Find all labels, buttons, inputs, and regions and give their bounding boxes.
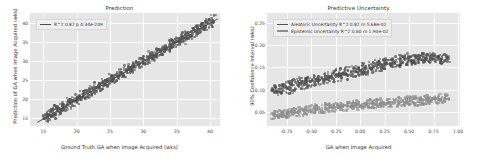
legend-entry: Epistemic Uncertainty R^2 0.60 m 1.90e-0…	[277, 29, 388, 34]
scatter-point	[125, 76, 127, 78]
scatter-point	[291, 108, 293, 110]
scatter-point	[53, 104, 56, 107]
scatter-point	[126, 72, 129, 75]
scatter-point	[186, 37, 188, 39]
scatter-point	[273, 118, 275, 120]
scatter-point	[417, 104, 419, 106]
scatter-point	[361, 107, 364, 110]
scatter-point	[355, 68, 357, 70]
scatter-point	[326, 82, 329, 85]
scatter-point	[347, 108, 349, 110]
x-tick-label: -0.75	[281, 129, 293, 134]
scatter-point	[394, 100, 396, 102]
scatter-point	[296, 111, 299, 114]
gridline-vertical	[434, 13, 435, 126]
scatter-point	[204, 20, 206, 22]
scatter-point	[78, 103, 80, 105]
scatter-point	[446, 94, 448, 96]
scatter-point	[375, 69, 377, 71]
scatter-point	[84, 96, 87, 99]
scatter-point	[332, 81, 334, 83]
scatter-point	[412, 101, 414, 103]
gridline-vertical	[409, 13, 410, 126]
scatter-point	[287, 115, 289, 117]
scatter-point	[377, 106, 380, 109]
gridline-vertical	[110, 13, 111, 126]
regression-fit-line	[37, 19, 217, 123]
scatter-point	[307, 110, 310, 113]
scatter-point	[320, 76, 323, 79]
scatter-point	[291, 113, 293, 115]
scatter-point	[277, 116, 279, 118]
gridline-horizontal	[30, 61, 220, 62]
scatter-point	[346, 78, 349, 81]
scatter-point	[401, 62, 403, 64]
scatter-point	[54, 117, 57, 120]
gridline-vertical	[210, 13, 211, 126]
x-tick-label: 25	[107, 129, 113, 134]
scatter-point	[376, 67, 379, 70]
scatter-point	[358, 68, 360, 70]
scatter-point	[141, 65, 144, 68]
scatter-point	[71, 104, 74, 107]
scatter-point	[95, 90, 97, 92]
scatter-point	[299, 115, 301, 117]
scatter-point	[170, 47, 173, 50]
panel-title-right: Predictive Uncertainty	[239, 5, 478, 11]
figure-canvas: Prediction 152025303540 152025303540 Gro…	[0, 0, 478, 157]
scatter-point	[169, 50, 171, 52]
scatter-point	[47, 120, 49, 122]
scatter-point	[134, 69, 137, 72]
scatter-point	[435, 59, 437, 61]
panel-predictive-uncertainty: Predictive Uncertainty -0.75-0.50-0.250.…	[239, 0, 478, 157]
gridline-horizontal	[30, 42, 220, 43]
scatter-point	[206, 29, 208, 31]
gridline-horizontal	[30, 99, 220, 100]
legend-label: R^2 0.82 p 4.34e-209	[54, 22, 103, 27]
scatter-point	[274, 85, 276, 87]
legend-line-swatch	[277, 30, 288, 32]
scatter-point	[361, 64, 364, 67]
scatter-point	[400, 64, 402, 66]
scatter-point	[290, 91, 292, 93]
scatter-point	[337, 80, 339, 82]
scatter-point	[388, 103, 390, 105]
scatter-point	[314, 83, 317, 86]
scatter-point	[285, 91, 287, 93]
x-tick-label: 0.50	[404, 129, 414, 134]
scatter-point	[191, 38, 193, 40]
scatter-point	[42, 114, 44, 116]
scatter-point	[182, 40, 185, 43]
scatter-point	[441, 97, 443, 99]
y-axis-label-left: Prediction of GA when Image Acquired (wk…	[12, 6, 18, 126]
scatter-point	[438, 102, 441, 105]
scatter-point	[324, 80, 327, 83]
scatter-point	[273, 110, 275, 112]
legend-label: Aleatoric Uncertainty R^2 0.82 m 5.68e-0…	[291, 22, 386, 27]
scatter-point	[394, 55, 396, 57]
x-axis-label-left: Ground Truth GA when Image Acquired (wks…	[0, 144, 239, 150]
scatter-point	[313, 111, 316, 114]
scatter-point	[102, 87, 104, 89]
scatter-point	[64, 109, 67, 112]
x-tick-label: 0.75	[428, 129, 438, 134]
scatter-point	[334, 69, 337, 72]
gridline-horizontal	[30, 80, 220, 81]
legend-left: R^2 0.82 p 4.34e-209	[36, 19, 107, 30]
legend-line-swatch	[277, 24, 288, 26]
legend-line-swatch	[40, 24, 51, 26]
scatter-point	[383, 67, 386, 70]
scatter-point	[184, 43, 186, 45]
scatter-point	[155, 56, 157, 58]
scatter-point	[341, 74, 343, 76]
scatter-point	[440, 93, 442, 95]
scatter-point	[153, 58, 155, 60]
x-tick-label: 1.00	[453, 129, 463, 134]
scatter-point	[292, 92, 294, 94]
scatter-point	[198, 31, 201, 34]
scatter-point	[280, 110, 283, 113]
scatter-point	[346, 74, 349, 77]
scatter-point	[58, 111, 60, 113]
scatter-point	[318, 83, 321, 86]
x-tick-label: 40	[207, 129, 213, 134]
